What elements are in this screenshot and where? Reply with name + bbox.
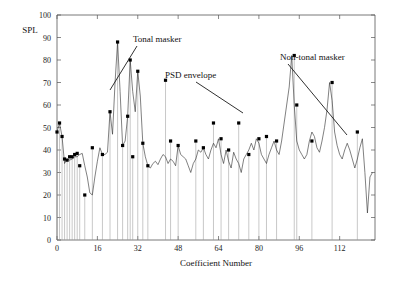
masker-marker — [219, 137, 222, 140]
masker-marker — [330, 81, 333, 84]
masker-marker — [78, 164, 81, 167]
masker-marker — [141, 142, 144, 145]
masker-marker — [212, 121, 215, 124]
y-tick-label: 100 — [39, 11, 51, 20]
masker-marker — [83, 193, 86, 196]
masker-marker — [177, 144, 180, 147]
tonal-masker-leader — [110, 46, 137, 90]
masker-marker — [275, 139, 278, 142]
masker-marker — [58, 121, 61, 124]
y-tick-label: 0 — [47, 236, 51, 245]
tonal-masker-label: Tonal masker — [133, 34, 182, 44]
x-tick-label: 80 — [255, 244, 263, 253]
psd-envelope-leader — [196, 82, 243, 113]
masker-marker — [91, 146, 94, 149]
y-tick-label: 80 — [43, 56, 51, 65]
x-tick-label: 16 — [93, 244, 101, 253]
x-tick-label: 48 — [174, 244, 182, 253]
plot-frame — [57, 15, 375, 240]
masker-marker — [237, 121, 240, 124]
psd-envelope-line — [57, 42, 372, 213]
x-axis-label: Coefficient Number — [180, 258, 252, 268]
y-tick-label: 90 — [43, 34, 51, 43]
masker-marker — [101, 153, 104, 156]
masker-marker — [247, 153, 250, 156]
psd-envelope-label: PSD envelope — [165, 70, 216, 80]
masker-marker — [227, 148, 230, 151]
y-tick-label: 60 — [43, 101, 51, 110]
masker-marker — [146, 164, 149, 167]
masker-marker — [60, 135, 63, 138]
x-tick-label: 96 — [295, 244, 303, 253]
y-tick-label: 20 — [43, 191, 51, 200]
x-tick-label: 0 — [55, 244, 59, 253]
y-tick-label: 30 — [43, 169, 51, 178]
masker-marker — [194, 139, 197, 142]
masker-marker — [126, 115, 129, 118]
masker-marker — [202, 146, 205, 149]
x-tick-label: 112 — [334, 244, 346, 253]
masker-marker — [257, 137, 260, 140]
y-tick-label: 10 — [43, 214, 51, 223]
y-tick-label: 70 — [43, 79, 51, 88]
x-tick-label: 64 — [215, 244, 223, 253]
masker-marker — [295, 103, 298, 106]
masker-marker — [310, 139, 313, 142]
masker-marker — [116, 40, 119, 43]
y-axis-label: SPL — [22, 25, 38, 35]
masker-marker — [136, 70, 139, 73]
spl-masking-chart: 01020304050607080901000163248648096112SP… — [0, 0, 400, 281]
x-tick-label: 32 — [134, 244, 142, 253]
masker-marker — [108, 110, 111, 113]
masker-marker — [265, 135, 268, 138]
masker-marker — [121, 144, 124, 147]
non-tonal-masker-label: Non-tonal masker — [280, 52, 345, 62]
y-tick-label: 40 — [43, 146, 51, 155]
masker-marker — [131, 155, 134, 158]
masker-marker — [76, 152, 79, 155]
masker-marker — [169, 139, 172, 142]
y-tick-label: 50 — [43, 124, 51, 133]
masker-marker — [356, 130, 359, 133]
masker-marker — [65, 159, 68, 162]
masker-marker — [55, 130, 58, 133]
